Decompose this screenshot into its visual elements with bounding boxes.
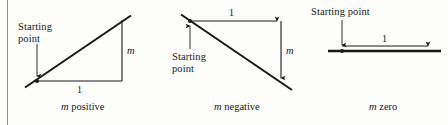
start-point-dot-negative — [188, 19, 192, 23]
run-label-zero: 1 — [382, 33, 387, 45]
start-point-label-positive-line2: point — [18, 33, 52, 45]
start-point-dot-zero — [340, 49, 344, 53]
rise-label-negative: m — [286, 45, 294, 57]
caption-word-positive: positive — [71, 101, 104, 112]
start-point-label-negative-line2: point — [172, 63, 206, 75]
caption-m-zero: m zero — [369, 101, 397, 113]
start-point-dot-positive — [35, 79, 39, 83]
run-label-positive: 1 — [77, 84, 82, 96]
run-label-negative: 1 — [229, 7, 234, 19]
caption-symbol-positive: m — [61, 101, 69, 112]
slope-figure: Starting point 1 m m positive 1 Starting… — [0, 0, 448, 125]
caption-word-zero: zero — [379, 101, 397, 112]
caption-symbol-negative: m — [214, 101, 222, 112]
start-point-label-negative: Starting point — [172, 51, 206, 74]
caption-m-positive: m positive — [61, 101, 104, 113]
caption-m-negative: m negative — [214, 101, 260, 113]
caption-symbol-zero: m — [369, 101, 377, 112]
start-point-label-positive: Starting point — [18, 21, 52, 44]
start-point-label-positive-line1: Starting — [18, 21, 52, 33]
rise-label-positive: m — [127, 45, 135, 57]
start-point-label-negative-line1: Starting — [172, 51, 206, 63]
start-point-label-zero: Starting point — [311, 6, 370, 18]
caption-word-negative: negative — [224, 101, 260, 112]
